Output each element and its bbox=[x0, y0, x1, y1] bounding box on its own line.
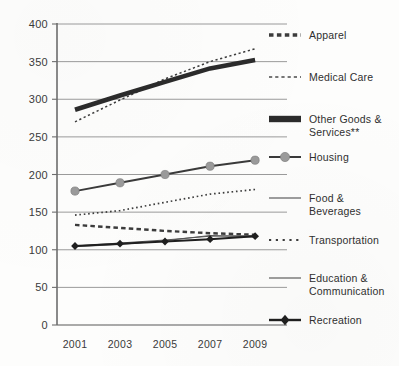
dotted-line-icon bbox=[268, 233, 302, 247]
x-axis-label-2005: 2005 bbox=[143, 338, 187, 350]
legend-item-7[interactable]: Recreation bbox=[268, 313, 362, 327]
legend-item-label: Apparel bbox=[309, 28, 347, 42]
solid-thin-line-icon bbox=[268, 191, 302, 205]
x-axis-label-2007: 2007 bbox=[188, 338, 232, 350]
diamond-marker-line-icon bbox=[268, 313, 302, 327]
legend-item-label: Other Goods & Services** bbox=[309, 112, 382, 138]
dashed-thick-line-icon bbox=[268, 28, 302, 42]
solid-thin-line-icon bbox=[268, 271, 302, 285]
x-axis-label-2001: 2001 bbox=[53, 338, 97, 350]
legend-item-label: Medical Care bbox=[309, 70, 373, 84]
solid-heavy-line-icon bbox=[268, 112, 302, 126]
x-axis-label-2009: 2009 bbox=[233, 338, 277, 350]
legend-item-label: Housing bbox=[309, 150, 349, 164]
legend-item-5[interactable]: Transportation bbox=[268, 233, 379, 247]
legend-item-0[interactable]: Apparel bbox=[268, 28, 347, 42]
legend-item-3[interactable]: Housing bbox=[268, 150, 349, 164]
x-axis-tick-labels: 20012003200520072009 bbox=[0, 0, 399, 366]
x-axis-label-2003: 2003 bbox=[98, 338, 142, 350]
legend-item-2[interactable]: Other Goods & Services** bbox=[268, 112, 382, 138]
legend-item-4[interactable]: Food & Beverages bbox=[268, 191, 399, 217]
legend-item-label: Food & Beverages bbox=[309, 191, 399, 217]
legend-item-1[interactable]: Medical Care bbox=[268, 70, 373, 84]
dashed-fine-line-icon bbox=[268, 70, 302, 84]
legend-item-6[interactable]: Education & Communication bbox=[268, 271, 385, 297]
legend-item-label: Transportation bbox=[309, 233, 379, 247]
legend-item-label: Recreation bbox=[309, 313, 362, 327]
chart-page: 400350300250200150100500 200120032005200… bbox=[0, 0, 399, 366]
circle-marker-line-icon bbox=[268, 150, 302, 164]
legend-item-label: Education & Communication bbox=[309, 271, 385, 297]
